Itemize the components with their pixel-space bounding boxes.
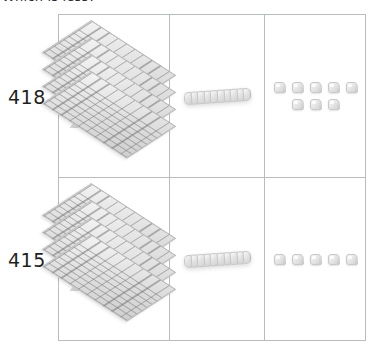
base-ten-unit-cube-icon — [310, 99, 321, 110]
base-ten-flat-stack-icon — [62, 21, 166, 171]
tens-cell-418 — [170, 15, 265, 178]
base-ten-rod-icon — [184, 250, 251, 268]
ones-cell-418 — [265, 15, 366, 178]
base-ten-unit-cube-icon — [274, 254, 285, 265]
hundreds-cell-415 — [59, 178, 170, 341]
worksheet-question-caption: Which is less? — [2, 0, 96, 4]
base-ten-unit-cube-icon — [328, 254, 339, 265]
tens-cell-415 — [170, 178, 265, 341]
base-ten-unit-cube-icon — [310, 82, 321, 93]
base-ten-unit-cube-icon — [274, 82, 285, 93]
base-ten-blocks-table — [58, 14, 362, 340]
base-ten-unit-cube-icon — [328, 82, 339, 93]
table-row — [59, 178, 366, 341]
hundreds-cell-418 — [59, 15, 170, 178]
base-ten-flat-stack-icon — [62, 184, 166, 334]
base-ten-unit-cube-icon — [328, 99, 339, 110]
table-row — [59, 15, 366, 178]
base-ten-unit-cube-icon — [292, 254, 303, 265]
base-ten-flat-icon — [62, 235, 166, 321]
base-ten-unit-cube-icon — [310, 254, 321, 265]
base-ten-unit-cube-icon — [346, 254, 357, 265]
base-ten-flat-icon — [62, 72, 166, 158]
base-ten-unit-cube-icon — [292, 82, 303, 93]
unit-cube-group — [265, 178, 365, 340]
base-ten-unit-cube-icon — [346, 82, 357, 93]
base-ten-unit-cube-icon — [292, 99, 303, 110]
ones-cell-415 — [265, 178, 366, 341]
unit-cube-group — [265, 15, 365, 177]
base-ten-rod-icon — [184, 87, 251, 105]
